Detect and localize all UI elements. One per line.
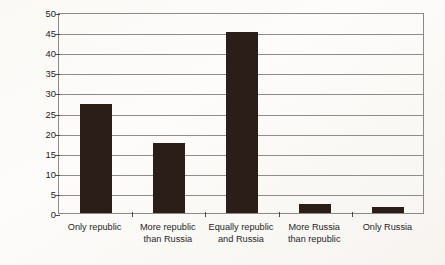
x-axis-category-labels: Only republicMore republic than RussiaEq… [58,222,424,256]
y-tickmark [55,74,60,75]
y-tickmark [55,94,60,95]
x-category-label: Only Russia [351,222,424,234]
y-tick-label: 5 [30,188,56,199]
x-tickmark [205,212,206,217]
x-category-label: More Russia than republic [278,222,351,245]
y-tick-label: 25 [30,108,56,119]
y-axis-tick-labels: 50454035302520151050 [30,8,56,220]
y-tickmark [55,175,60,176]
y-tickmark [55,54,60,55]
y-tick-label: 50 [30,8,56,19]
x-tickmark [132,212,133,217]
x-tickmark [352,212,353,217]
y-tick-label: 10 [30,168,56,179]
y-tickmark [55,155,60,156]
y-tickmark [55,215,60,216]
y-tickmark [55,34,60,35]
y-tickmark [55,14,60,15]
plot-area [58,13,424,214]
y-tick-label: 30 [30,88,56,99]
chart-page: Average percentage of titular respondent… [0,0,445,265]
y-tickmark [55,195,60,196]
y-tick-label: 15 [30,148,56,159]
bar [299,204,331,213]
bar [153,143,185,213]
y-tickmark [55,135,60,136]
x-category-label: Only republic [58,222,131,234]
y-tick-label: 40 [30,48,56,59]
bar [372,207,404,213]
x-category-label: More republic than Russia [131,222,204,245]
y-tick-label: 20 [30,128,56,139]
bar [226,32,258,213]
y-tick-label: 45 [30,28,56,39]
x-tickmark [279,212,280,217]
y-tick-label: 35 [30,68,56,79]
bar [80,104,112,213]
y-tickmark [55,115,60,116]
x-category-label: Equally republic and Russia [204,222,277,245]
y-tick-label: 0 [30,209,56,220]
